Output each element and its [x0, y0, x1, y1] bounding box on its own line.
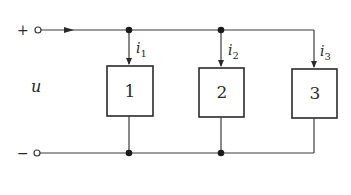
- terminal-circle-icon: [35, 27, 41, 33]
- current-label-1: i1: [136, 40, 147, 59]
- element-1-label: 1: [125, 81, 136, 101]
- top-rail: [41, 27, 314, 33]
- junction-node-icon: [126, 150, 133, 157]
- positive-terminal: +: [17, 22, 41, 38]
- current-label-3: i3: [320, 43, 331, 62]
- junction-node-icon: [218, 27, 225, 34]
- branch-1: 1 i1: [107, 27, 153, 157]
- element-2-label: 2: [217, 82, 228, 102]
- current-label-2: i2: [228, 42, 239, 61]
- terminal-circle-icon: [34, 150, 40, 156]
- branch-3: 3 i3: [292, 30, 337, 153]
- junction-node-icon: [218, 150, 225, 157]
- voltage-label: u: [31, 77, 41, 96]
- circuit-diagram: + − u 1 i1 2 i2 3 i3: [0, 0, 351, 195]
- negative-sign: −: [17, 145, 29, 161]
- negative-terminal: −: [17, 145, 40, 161]
- positive-sign: +: [17, 22, 29, 38]
- junction-node-icon: [126, 27, 133, 34]
- branch-2: 2 i2: [199, 27, 244, 157]
- current-direction-arrow-icon: [64, 27, 74, 33]
- element-3-label: 3: [310, 83, 321, 103]
